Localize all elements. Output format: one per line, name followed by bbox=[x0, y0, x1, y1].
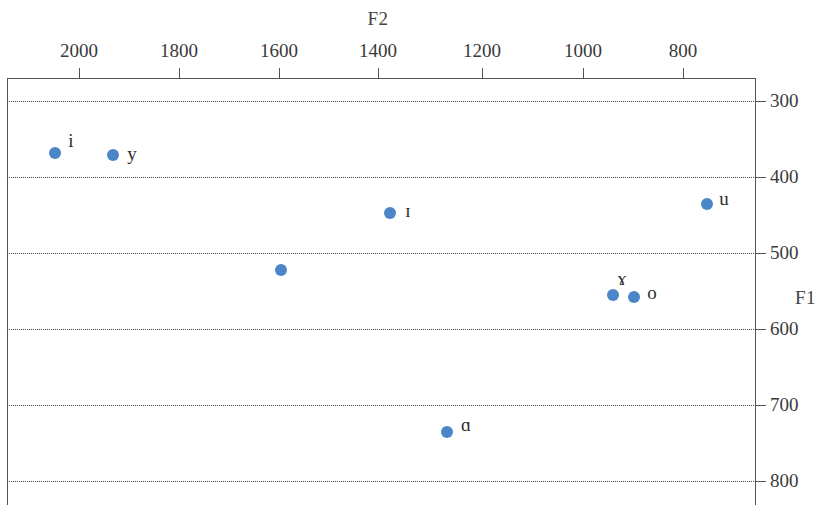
x-tick-label: 1400 bbox=[359, 40, 397, 62]
data-point bbox=[701, 198, 713, 210]
data-point bbox=[628, 291, 640, 303]
gridline bbox=[7, 405, 756, 406]
x-tick-mark bbox=[79, 68, 80, 78]
data-point bbox=[107, 149, 119, 161]
x-tick-mark bbox=[583, 68, 584, 78]
data-point-label: ɤ bbox=[618, 268, 626, 290]
data-point bbox=[49, 147, 61, 159]
vowel-formant-chart: F2 F1 200018001600140012001000800 300400… bbox=[0, 0, 840, 505]
y-tick-label: 400 bbox=[770, 166, 799, 188]
gridline bbox=[7, 177, 756, 178]
y-axis-title: F1 bbox=[795, 287, 816, 309]
data-point bbox=[607, 289, 619, 301]
data-point-label: ɪ bbox=[405, 200, 410, 222]
x-tick-mark bbox=[683, 68, 684, 78]
x-tick-mark bbox=[279, 68, 280, 78]
x-tick-label: 1000 bbox=[564, 40, 602, 62]
x-tick-label: 2000 bbox=[60, 40, 98, 62]
x-tick-label: 1600 bbox=[260, 40, 298, 62]
x-axis-title: F2 bbox=[0, 8, 756, 30]
data-point-label: u bbox=[719, 188, 729, 210]
x-tick-label: 1200 bbox=[463, 40, 501, 62]
x-tick-label: 1800 bbox=[160, 40, 198, 62]
gridline bbox=[7, 481, 756, 482]
data-point-label: ɑ bbox=[461, 414, 471, 436]
data-point bbox=[384, 207, 396, 219]
y-tick-mark bbox=[756, 101, 766, 102]
data-point bbox=[275, 264, 287, 276]
data-point-label: o bbox=[647, 282, 657, 304]
y-tick-mark bbox=[756, 405, 766, 406]
plot-area bbox=[7, 78, 756, 505]
y-tick-label: 800 bbox=[770, 470, 799, 492]
data-point bbox=[441, 426, 453, 438]
y-tick-label: 500 bbox=[770, 242, 799, 264]
y-tick-label: 700 bbox=[770, 394, 799, 416]
y-tick-label: 300 bbox=[770, 90, 799, 112]
y-tick-mark bbox=[756, 329, 766, 330]
y-tick-label: 600 bbox=[770, 318, 799, 340]
y-tick-mark bbox=[756, 177, 766, 178]
data-point-label: y bbox=[127, 143, 137, 165]
y-tick-mark bbox=[756, 253, 766, 254]
x-tick-label: 800 bbox=[669, 40, 698, 62]
x-tick-mark bbox=[378, 68, 379, 78]
data-point-label: i bbox=[68, 130, 73, 152]
gridline bbox=[7, 329, 756, 330]
x-tick-mark bbox=[482, 68, 483, 78]
gridline bbox=[7, 253, 756, 254]
y-tick-mark bbox=[756, 481, 766, 482]
x-tick-mark bbox=[179, 68, 180, 78]
gridline bbox=[7, 101, 756, 102]
